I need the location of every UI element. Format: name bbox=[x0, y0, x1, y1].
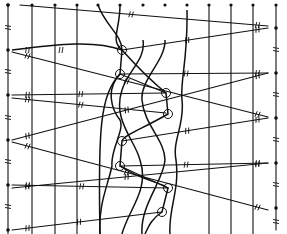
stitch-lines bbox=[12, 5, 268, 230]
circled-points bbox=[116, 46, 173, 217]
tick-marks bbox=[5, 11, 279, 231]
diagram-canvas bbox=[0, 0, 287, 234]
marker-dots bbox=[6, 3, 278, 232]
axes bbox=[8, 5, 276, 234]
straight-vertical-lines bbox=[32, 5, 253, 234]
pleat-diagram bbox=[0, 0, 287, 234]
curved-vertical-lines bbox=[98, 5, 187, 234]
